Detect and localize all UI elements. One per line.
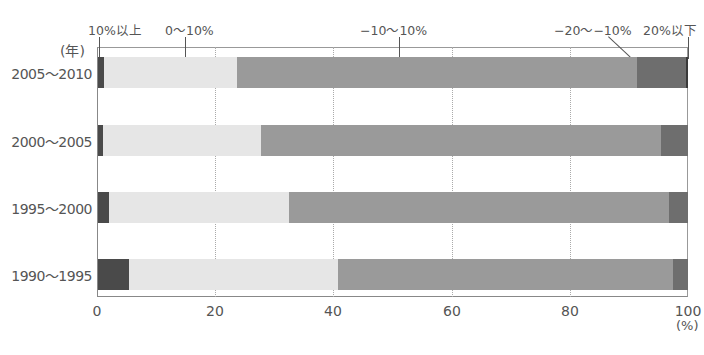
x-tick: 0 <box>93 303 102 319</box>
bar-segment <box>673 259 688 290</box>
bar-segment <box>338 259 673 290</box>
x-tick: 80 <box>561 303 579 319</box>
row-label: 1995～2000 <box>0 198 92 218</box>
leader-line <box>688 37 689 59</box>
y-axis-unit: (年) <box>60 40 85 60</box>
bar-row <box>98 192 688 223</box>
row-label: 2000～2005 <box>0 131 92 151</box>
x-tick: 100 <box>675 303 702 319</box>
row-label: 2005～2010 <box>0 63 92 83</box>
legend-label-minus10-10: −10～10% <box>360 20 427 39</box>
x-axis-unit: (%) <box>676 318 699 333</box>
bar-segment <box>669 192 688 223</box>
bar-row <box>98 57 688 88</box>
row-label: 1990～1995 <box>0 265 92 285</box>
bar-segment <box>104 57 236 88</box>
legend-label-minus20-minus10: −20～−10% <box>554 20 632 39</box>
leader-line <box>99 37 100 59</box>
bar-segment <box>237 57 638 88</box>
bar-segment <box>661 125 688 156</box>
bar-segment <box>129 259 338 290</box>
bar-segment <box>686 57 688 88</box>
legend-label-over-10: 10%以上 <box>88 20 142 39</box>
bar-segment <box>98 259 129 290</box>
x-tick: 40 <box>324 303 342 319</box>
legend-label-0-10: 0～10% <box>165 20 214 39</box>
x-tick: 20 <box>206 303 224 319</box>
bar-segment <box>103 125 261 156</box>
bar-row <box>98 125 688 156</box>
stacked-bar-chart: (年) 10%以上 0～10% −10～10% −20～−10% 20%以下 2… <box>0 0 704 355</box>
bar-row <box>98 259 688 290</box>
bar-segment <box>637 57 686 88</box>
bar-segment <box>261 125 661 156</box>
bar-segment <box>98 192 109 223</box>
bar-segment <box>289 192 669 223</box>
x-tick: 60 <box>443 303 461 319</box>
bar-segment <box>109 192 288 223</box>
